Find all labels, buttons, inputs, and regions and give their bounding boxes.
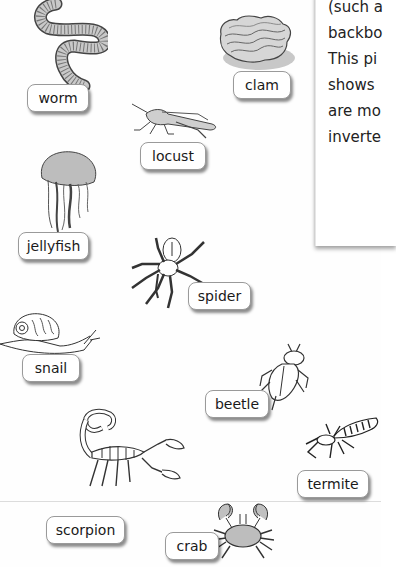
- termite-illustration: [300, 414, 380, 460]
- panel-text-line: backbo: [328, 24, 382, 42]
- info-text-panel: (such a backbo This pi shows are mo inve…: [315, 0, 396, 246]
- panel-text-line: are mo: [328, 102, 381, 120]
- horizontal-divider: [0, 501, 381, 502]
- label-scorpion[interactable]: scorpion: [46, 516, 125, 544]
- label-beetle[interactable]: beetle: [205, 390, 269, 418]
- clam-illustration: [215, 12, 295, 74]
- locust-illustration: [128, 100, 224, 140]
- scorpion-illustration: [62, 408, 186, 488]
- label-snail[interactable]: snail: [22, 354, 80, 382]
- panel-text-line: shows: [328, 76, 375, 94]
- label-jellyfish[interactable]: jellyfish: [18, 232, 89, 260]
- panel-text-line: inverte: [328, 128, 381, 146]
- snail-illustration: [0, 310, 100, 360]
- label-spider[interactable]: spider: [188, 282, 251, 310]
- label-crab[interactable]: crab: [165, 532, 219, 560]
- panel-text-line: (such a: [328, 0, 383, 16]
- label-worm[interactable]: worm: [27, 84, 89, 112]
- panel-text-line: This pi: [328, 50, 377, 68]
- jellyfish-illustration: [32, 148, 102, 234]
- label-locust[interactable]: locust: [140, 142, 206, 170]
- crab-illustration: [212, 500, 274, 564]
- worm-illustration: [18, 0, 108, 90]
- label-termite[interactable]: termite: [297, 470, 369, 498]
- label-clam[interactable]: clam: [233, 71, 291, 99]
